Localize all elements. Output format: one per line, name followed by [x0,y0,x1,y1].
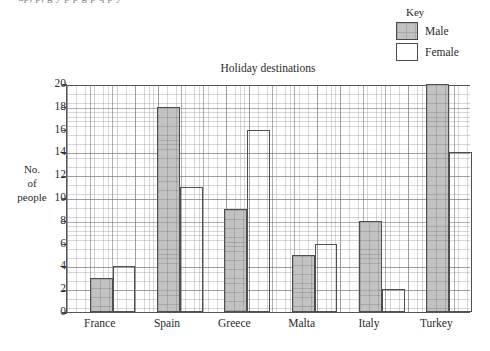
y-axis-tick-label: 12 [42,168,66,180]
bar-greece-male [224,209,247,312]
y-axis-tick-label: 18 [42,100,66,112]
bar-spain-male [157,107,180,312]
legend-swatch-female-icon [396,43,418,61]
legend: Key Male Female [396,6,490,61]
bar-turkey-female [449,152,472,312]
plot-area [66,85,470,313]
y-axis-tick-label: 4 [42,259,66,271]
legend-label-female: Female [425,46,459,58]
y-axis-tick-label: 0 [42,305,66,317]
y-axis-tick-label: 2 [42,282,66,294]
bar-turkey-male [426,84,449,312]
y-axis-tick-label: 10 [42,191,66,203]
bar-france-female [113,266,136,312]
chart-page: up, p, g y p p g p q p y Key Male Female… [0,0,490,351]
bar-malta-male [292,255,315,312]
plot-top-border [67,85,470,86]
bar-france-male [90,278,113,312]
clipped-header-text: up, p, g y p p g p q p y [18,0,458,3]
chart-title: Holiday destinations [0,62,490,74]
y-axis-tick-label: 16 [42,123,66,135]
bar-italy-male [359,221,382,312]
legend-label-male: Male [425,25,449,37]
legend-swatch-male-icon [396,22,418,40]
bar-malta-female [315,244,338,312]
y-axis-tick-label: 8 [42,214,66,226]
legend-item-female: Female [396,43,490,61]
legend-item-male: Male [396,22,490,40]
x-axis-label-france: France [84,317,115,329]
legend-title: Key [406,6,490,19]
x-axis-label-spain: Spain [154,317,180,329]
x-axis-label-turkey: Turkey [420,317,453,329]
bar-italy-female [382,289,405,312]
y-axis-tick-label: 20 [42,77,66,89]
bar-spain-female [180,187,203,312]
y-axis-tick-label: 14 [42,145,66,157]
x-axis-label-malta: Malta [288,317,315,329]
bar-greece-female [247,130,270,312]
x-axis-label-italy: Italy [358,317,379,329]
x-axis-label-greece: Greece [218,317,251,329]
y-axis-tick-label: 6 [42,237,66,249]
